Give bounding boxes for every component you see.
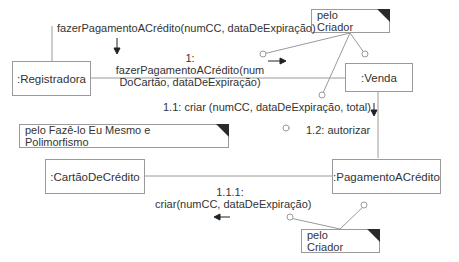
pagamento-object[interactable]: :PagamentoACrédito	[332, 159, 441, 194]
venda-object[interactable]: :Venda	[345, 63, 413, 92]
note-fazelo: pelo Fazê-lo Eu Mesmo e Polimorfismo	[19, 124, 229, 148]
venda-label: :Venda	[361, 72, 397, 84]
note-fazelo-text: pelo Fazê-lo Eu Mesmo e Polimorfismo	[25, 124, 212, 148]
note-fold-icon	[216, 124, 229, 137]
message-1-2: 1.2: autorizar	[306, 124, 370, 136]
message-1-line1: fazerPagamentoACrédito(num	[115, 64, 265, 76]
note-criador-top-text: pelo Criador	[317, 9, 373, 33]
pagamento-label: :PagamentoACrédito	[333, 171, 440, 183]
message-1: 1: fazerPagamentoACrédito(num DoCartão, …	[115, 52, 265, 88]
message-1-1-1-num: 1.1.1:	[155, 186, 305, 198]
message-1-line2: DoCartão, dataDeExpiração)	[115, 76, 265, 88]
cartao-label: :CartãoDeCrédito	[50, 171, 139, 183]
registradora-object[interactable]: :Registradora	[12, 61, 91, 96]
note-criador-bottom-text: pelo Criador	[307, 229, 363, 253]
message-1-num: 1:	[115, 52, 265, 64]
message-1-1: 1.1: criar (numCC, dataDeExpiração, tota…	[163, 101, 371, 113]
message-1-1-1: 1.1.1: criar(numCC, dataDeExpiração)	[155, 186, 305, 210]
note-criador-top: pelo Criador	[311, 9, 390, 33]
note-fold-icon	[367, 229, 380, 242]
cartao-object[interactable]: :CartãoDeCrédito	[45, 159, 145, 194]
note-criador-bottom: pelo Criador	[301, 229, 380, 253]
registradora-label: :Registradora	[17, 73, 86, 85]
note-fold-icon	[377, 9, 390, 22]
message-external: fazerPagamentoACrédito(numCC, dataDeExpi…	[57, 22, 316, 34]
message-1-1-1-text: criar(numCC, dataDeExpiração)	[155, 198, 305, 210]
